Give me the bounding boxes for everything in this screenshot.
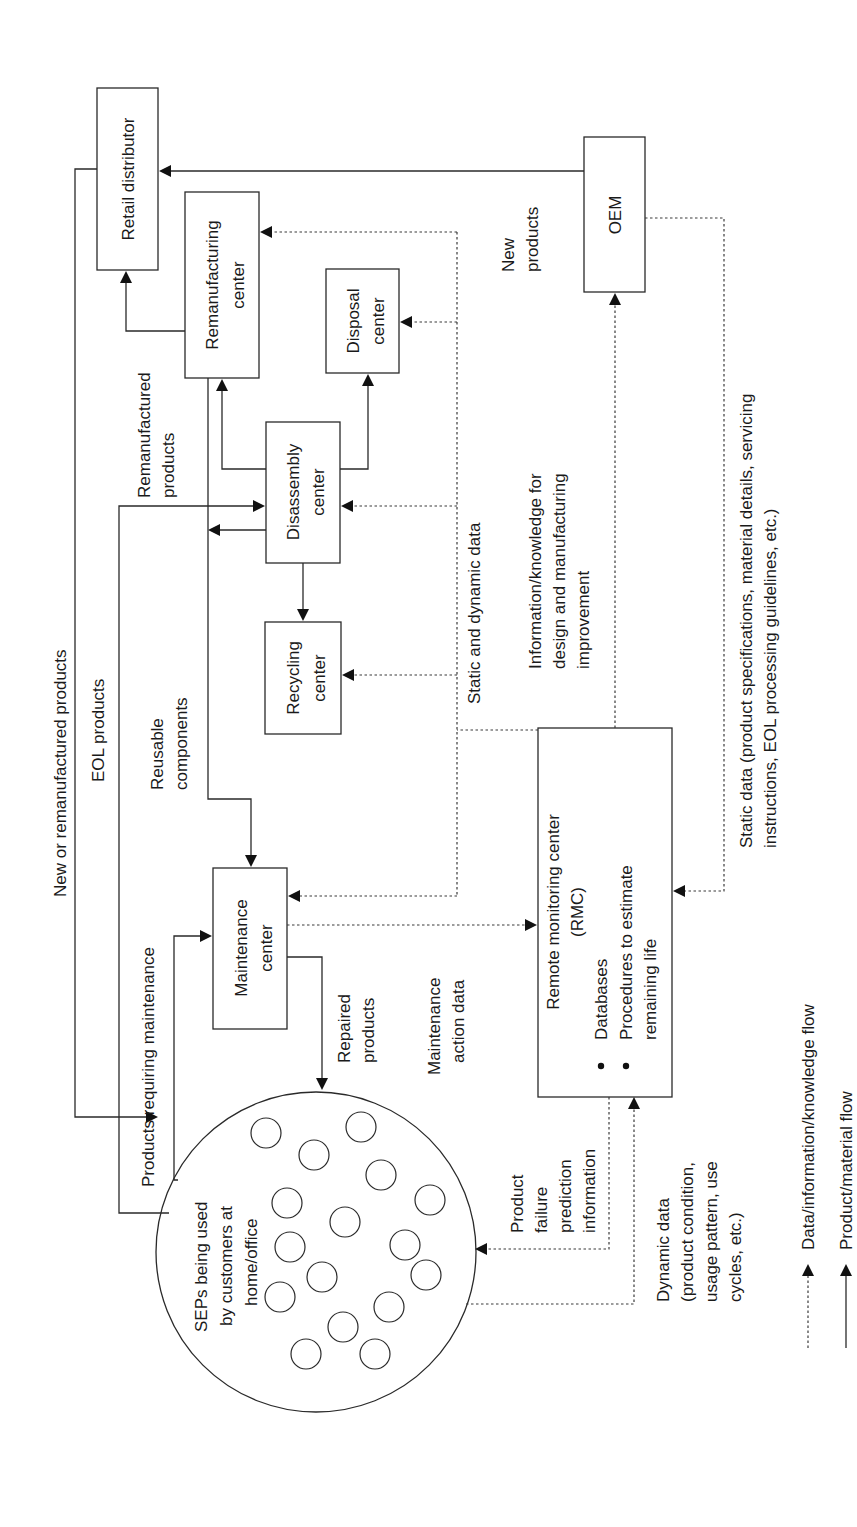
- label-info-knowledge-3: improvement: [574, 570, 593, 669]
- maintenance-label-1: Maintenance: [232, 899, 251, 996]
- disassembly-label-1: Disassembly: [284, 443, 303, 540]
- label-static-dynamic: Static and dynamic data: [465, 522, 484, 704]
- bullet-icon: [623, 1063, 629, 1069]
- label-failure-prediction-1: Product: [508, 1174, 527, 1233]
- label-new-products-1: New: [499, 237, 518, 272]
- rmc-node: Remote monitoring center (RMC) Databases…: [538, 728, 672, 1097]
- seps-label-3: home/office: [242, 1218, 261, 1306]
- label-static-data-2: instructions, EOL processing guidelines,…: [761, 508, 780, 848]
- label-repaired-2: products: [359, 998, 378, 1063]
- seps-customers-node: SEPs being used by customers at home/off…: [156, 1092, 476, 1412]
- label-eol-products: EOL products: [89, 679, 108, 782]
- label-static-data-1: Static data (product specifications, mat…: [737, 394, 756, 848]
- label-info-knowledge-1: Information/knowledge for: [526, 473, 545, 669]
- maintenance-center-node: Maintenance center: [213, 868, 287, 1029]
- legend-data-flow: Data/information/knowledge flow: [799, 1004, 818, 1250]
- maintenance-label-2: center: [257, 924, 276, 972]
- label-info-knowledge-2: design and manufacturing: [550, 473, 569, 669]
- disposal-center-node: Disposal center: [326, 269, 399, 373]
- product-lifecycle-diagram: Retail distributor Remanufacturing cente…: [0, 0, 857, 1527]
- label-reusable-1: Reusable: [148, 718, 167, 790]
- label-new-or-remanufactured: New or remanufactured products: [51, 649, 70, 897]
- disassembly-center-node: Disassembly center: [266, 422, 340, 563]
- legend-product-flow: Product/material flow: [837, 1091, 856, 1250]
- seps-label-1: SEPs being used: [192, 1202, 211, 1332]
- label-remanufactured-products-2: products: [159, 433, 178, 498]
- disassembly-label-2: center: [309, 468, 328, 516]
- remanufacturing-label-1: Remanufacturing: [203, 220, 222, 349]
- label-failure-prediction-4: information: [580, 1149, 599, 1233]
- label-dynamic-data-4: cycles, etc.): [726, 1212, 745, 1302]
- label-products-requiring-maintenance: Products requiring maintenance: [139, 947, 158, 1187]
- label-new-products-2: products: [523, 207, 542, 272]
- rmc-bullet-databases: Databases: [592, 959, 611, 1040]
- label-remanufactured-products-1: Remanufactured: [135, 372, 154, 498]
- label-dynamic-data-2: (product condition,: [678, 1162, 697, 1302]
- retail-distributor-label: Retail distributor: [119, 117, 138, 240]
- recycling-label-2: center: [310, 654, 329, 702]
- label-maintenance-action-2: action data: [449, 979, 468, 1063]
- label-failure-prediction-2: failure: [532, 1187, 551, 1233]
- disposal-label-1: Disposal: [344, 288, 363, 353]
- recycling-label-1: Recycling: [284, 641, 303, 715]
- retail-distributor-node: Retail distributor: [97, 88, 158, 270]
- remanufacturing-center-node: Remanufacturing center: [185, 192, 259, 378]
- oem-node: OEM: [584, 137, 645, 292]
- label-dynamic-data-3: usage pattern, use: [702, 1161, 721, 1302]
- seps-label-2: by customers at: [217, 1206, 236, 1326]
- label-failure-prediction-3: prediction: [556, 1159, 575, 1233]
- label-dynamic-data-1: Dynamic data: [654, 1198, 673, 1302]
- label-repaired-1: Repaired: [335, 994, 354, 1063]
- disposal-label-2: center: [369, 297, 388, 345]
- legend: Data/information/knowledge flow Product/…: [799, 1004, 856, 1348]
- rmc-bullet-procedures: Procedures to estimate: [617, 865, 636, 1040]
- rmc-title-2: (RMC): [568, 887, 587, 937]
- remanufacturing-label-2: center: [229, 261, 248, 309]
- bullet-icon: [598, 1063, 604, 1069]
- label-reusable-2: components: [172, 697, 191, 790]
- oem-label: OEM: [606, 196, 625, 235]
- rmc-bullet-procedures-cont: remaining life: [641, 939, 660, 1040]
- label-maintenance-action-1: Maintenance: [425, 978, 444, 1075]
- recycling-center-node: Recycling center: [265, 622, 341, 734]
- rmc-title-1: Remote monitoring center: [544, 814, 563, 1010]
